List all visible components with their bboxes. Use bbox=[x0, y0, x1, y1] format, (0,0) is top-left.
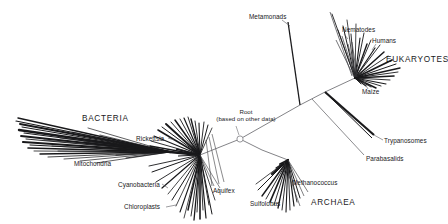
root-annotation-line1: Root bbox=[239, 108, 252, 115]
root-annotation: Root (based on other data) bbox=[200, 108, 292, 123]
label-bacteria-domain: BACTERIA bbox=[82, 115, 129, 123]
label-humans: Humans bbox=[372, 37, 396, 45]
label-eukaryotes-domain: EUKARYOTES bbox=[386, 56, 448, 64]
label-methanococcus: Methanococcus bbox=[292, 179, 337, 187]
label-maize: Maize bbox=[362, 88, 379, 96]
label-sulfolobus: Sulfolobus bbox=[250, 200, 280, 208]
label-metamonads: Metamonads bbox=[249, 13, 286, 21]
label-parabasalids: Parabasalids bbox=[366, 155, 404, 163]
root-node-marker bbox=[237, 136, 243, 142]
trypanosomes-branch bbox=[325, 92, 374, 138]
metamonads-branch bbox=[288, 22, 300, 105]
label-archaea-domain: ARCHAEA bbox=[311, 199, 355, 207]
parabasalids-branch bbox=[312, 99, 364, 155]
label-trypanosomes: Trypanosomes bbox=[384, 137, 427, 145]
label-rickettsia: Rickettsia bbox=[136, 135, 164, 143]
label-aquifex: Aquifex bbox=[213, 187, 235, 195]
label-chloroplasts: Chloroplasts bbox=[124, 203, 160, 211]
bacteria-label-leaders bbox=[162, 184, 176, 207]
label-mitochondria: Mitochondria bbox=[74, 160, 111, 168]
root-annotation-line2: (based on other data) bbox=[200, 115, 292, 122]
phylogenetic-tree-figure: BACTERIA ARCHAEA EUKARYOTES Root (based … bbox=[0, 0, 448, 224]
label-nematodes: Nematodes bbox=[342, 26, 375, 34]
label-cyanobacteria: Cyanobacteria bbox=[118, 181, 160, 189]
root-leader-line bbox=[236, 126, 239, 135]
trypanosomes-leader bbox=[374, 135, 383, 140]
